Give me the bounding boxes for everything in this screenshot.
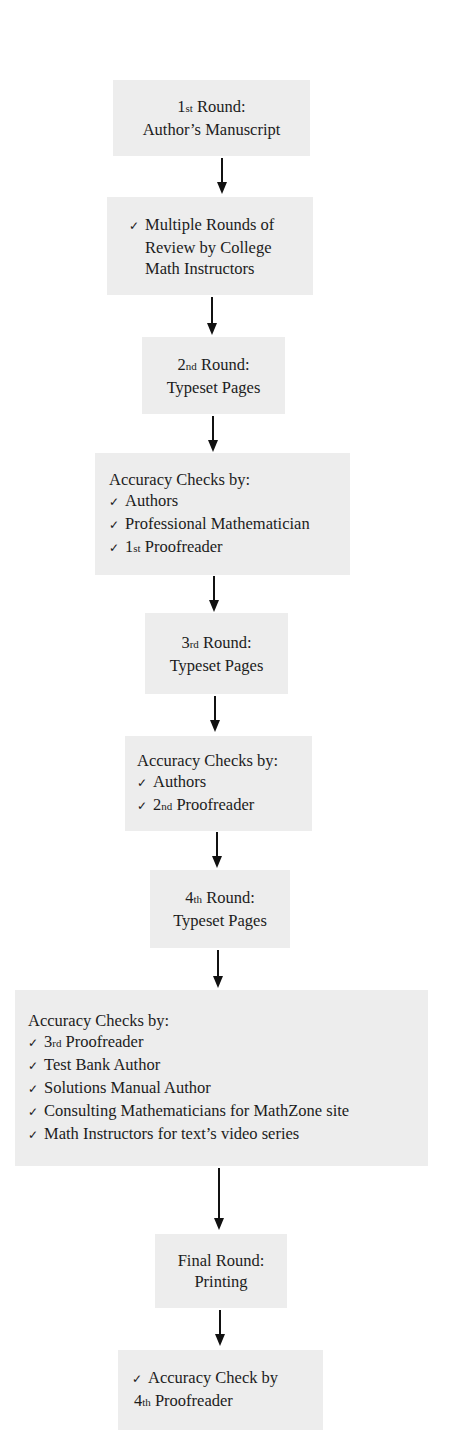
checkmark-icon: ✓: [132, 1369, 144, 1390]
checkmark-icon: ✓: [109, 492, 121, 513]
review-line-3: Math Instructors: [129, 258, 313, 279]
round3-title: 3rd Round:: [181, 632, 251, 655]
checks2-item: ✓Authors: [137, 771, 312, 794]
checks1-heading: Accuracy Checks by:: [109, 469, 350, 490]
step-review-box: ✓Multiple Rounds of Review by College Ma…: [107, 197, 313, 295]
checks3-item: ✓Math Instructors for text’s video serie…: [28, 1123, 428, 1146]
round1-title: 1st Round:: [177, 96, 245, 119]
step-round2-box: 2nd Round: Typeset Pages: [142, 337, 285, 414]
step-checks2-box: Accuracy Checks by: ✓Authors ✓2nd Proofr…: [125, 736, 312, 831]
review-line-1: ✓Multiple Rounds of: [129, 214, 313, 237]
checkmark-icon: ✓: [28, 1079, 40, 1100]
checkmark-icon: ✓: [28, 1125, 40, 1146]
step-final-box: Final Round: Printing: [155, 1234, 287, 1308]
checks3-item: ✓Consulting Mathematicians for MathZone …: [28, 1100, 428, 1123]
checks1-item: ✓1st Proofreader: [109, 536, 350, 559]
final-title: Final Round:: [178, 1250, 265, 1271]
step-final-check-box: ✓Accuracy Check by 4th Proofreader: [118, 1350, 323, 1430]
checks3-item: ✓Solutions Manual Author: [28, 1077, 428, 1100]
checkmark-icon: ✓: [137, 796, 149, 817]
final-check-line-2: 4th Proofreader: [132, 1390, 323, 1413]
round2-title: 2nd Round:: [178, 354, 250, 377]
round2-subtitle: Typeset Pages: [167, 377, 261, 398]
step-checks1-box: Accuracy Checks by: ✓Authors ✓Profession…: [95, 453, 350, 575]
checks3-item: ✓Test Bank Author: [28, 1054, 428, 1077]
checkmark-icon: ✓: [109, 515, 121, 536]
checkmark-icon: ✓: [28, 1033, 40, 1054]
checkmark-icon: ✓: [137, 773, 149, 794]
final-subtitle: Printing: [194, 1271, 247, 1292]
round3-subtitle: Typeset Pages: [170, 655, 264, 676]
checks3-heading: Accuracy Checks by:: [28, 1010, 428, 1031]
step-round1-box: 1st Round: Author’s Manuscript: [113, 80, 310, 156]
checks1-item: ✓Authors: [109, 490, 350, 513]
round1-subtitle: Author’s Manuscript: [143, 119, 281, 140]
checkmark-icon: ✓: [28, 1102, 40, 1123]
final-check-line-1: ✓Accuracy Check by: [132, 1367, 323, 1390]
checks2-item: ✓2nd Proofreader: [137, 794, 312, 817]
step-round3-box: 3rd Round: Typeset Pages: [145, 613, 288, 694]
round4-subtitle: Typeset Pages: [173, 910, 267, 931]
round4-title: 4th Round:: [185, 887, 255, 910]
checkmark-icon: ✓: [28, 1056, 40, 1077]
checks3-item: ✓3rd Proofreader: [28, 1031, 428, 1054]
checks1-item: ✓Professional Mathematician: [109, 513, 350, 536]
checkmark-icon: ✓: [129, 216, 141, 237]
review-line-2: Review by College: [129, 237, 313, 258]
step-round4-box: 4th Round: Typeset Pages: [150, 870, 290, 948]
checks2-heading: Accuracy Checks by:: [137, 750, 312, 771]
checkmark-icon: ✓: [109, 538, 121, 559]
step-checks3-box: Accuracy Checks by: ✓3rd Proofreader ✓Te…: [15, 990, 428, 1166]
